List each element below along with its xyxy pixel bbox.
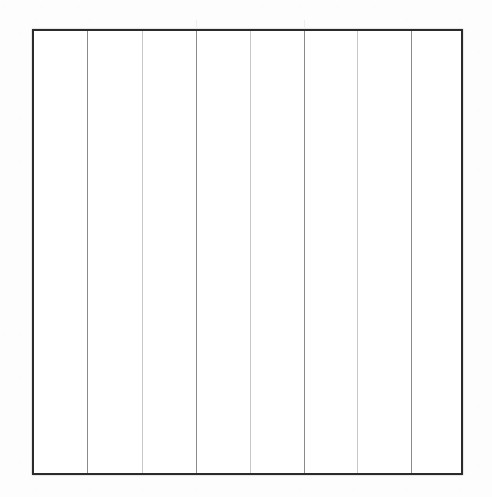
page-canvas: [0, 0, 492, 497]
grid-column-4[interactable]: [196, 31, 250, 473]
grid-column-7[interactable]: [357, 31, 411, 473]
rule-ghost-mark-2: [304, 20, 305, 29]
grid-frame: [32, 29, 463, 475]
rule-ghost-mark-1: [196, 20, 197, 29]
grid-column-1[interactable]: [32, 31, 87, 473]
grid-column-3[interactable]: [142, 31, 196, 473]
grid-column-8[interactable]: [411, 31, 463, 473]
grid-column-5[interactable]: [250, 31, 304, 473]
grid-column-2[interactable]: [87, 31, 142, 473]
grid-column-6[interactable]: [304, 31, 357, 473]
